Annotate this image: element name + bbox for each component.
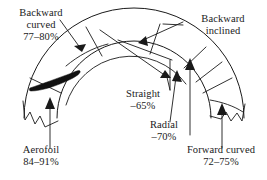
label-radial-line1: Radial <box>136 119 192 131</box>
arrowhead-radial <box>185 58 195 70</box>
break-line-right <box>210 104 245 121</box>
leader-backward-inclined-branch <box>163 24 183 25</box>
arrowhead-radial-stem <box>172 70 182 82</box>
label-backward-curved-efficiency: 77–80% <box>4 31 78 43</box>
label-aerofoil-efficiency: 84–91% <box>8 156 74 168</box>
label-backward-curved-line2: curved <box>4 19 78 31</box>
arrowhead-straight <box>160 70 171 78</box>
label-forward-curved: Forward curved 72–75% <box>176 144 266 168</box>
label-radial-efficiency: –70% <box>136 131 192 143</box>
backward-inclined-blade-shape <box>100 30 163 74</box>
radial-blade-shape <box>196 62 222 82</box>
sector-divider-5 <box>203 78 232 93</box>
label-straight-efficiency: –65% <box>112 100 174 112</box>
label-aerofoil-line1: Aerofoil <box>8 144 74 156</box>
label-forward-curved-efficiency: 72–75% <box>176 156 266 168</box>
label-backward-inclined-line2: inclined <box>182 25 264 37</box>
forward-curved-blade-shape <box>210 100 243 112</box>
label-backward-curved-line1: Backward <box>4 7 78 19</box>
label-straight: Straight –65% <box>112 88 174 112</box>
label-radial: Radial –70% <box>136 119 192 143</box>
label-backward-curved: Backward curved 77–80% <box>4 7 78 42</box>
arrowhead-aerofoil <box>45 97 55 109</box>
label-forward-curved-line1: Forward curved <box>176 144 266 156</box>
label-backward-inclined: Backward inclined <box>182 13 264 37</box>
arrowhead-forward-curved <box>217 103 227 115</box>
label-straight-line1: Straight <box>112 88 174 100</box>
label-backward-inclined-line1: Backward <box>182 13 264 25</box>
aerofoil-blade-shape <box>29 71 80 91</box>
fan-blade-diagram: Backward curved 77–80% Backward inclined… <box>0 0 267 180</box>
arrowhead-backward-curved <box>74 44 86 52</box>
label-aerofoil: Aerofoil 84–91% <box>8 144 74 168</box>
sector-divider-3 <box>150 24 160 54</box>
